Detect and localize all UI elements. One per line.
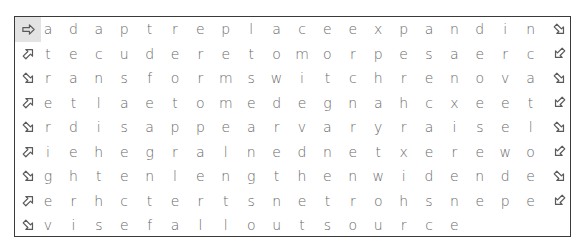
- letter-cell[interactable]: t: [368, 140, 388, 165]
- letter-cell[interactable]: p: [394, 17, 414, 42]
- letter-cell[interactable]: n: [89, 66, 109, 91]
- letter-cell[interactable]: p: [495, 189, 515, 214]
- letter-cell[interactable]: g: [140, 140, 160, 165]
- letter-cell[interactable]: p: [114, 17, 134, 42]
- letter-cell[interactable]: o: [190, 91, 210, 116]
- letter-cell[interactable]: n: [140, 164, 160, 189]
- letter-cell[interactable]: w: [368, 164, 388, 189]
- letter-cell[interactable]: r: [343, 189, 363, 214]
- letter-cell[interactable]: x: [394, 140, 414, 165]
- letter-cell[interactable]: a: [63, 66, 83, 91]
- letter-cell[interactable]: r: [190, 42, 210, 67]
- letter-cell[interactable]: e: [38, 189, 58, 214]
- letter-cell[interactable]: v: [292, 115, 312, 140]
- arrow-down-right-icon[interactable]: [546, 17, 572, 42]
- arrow-down-right-icon[interactable]: [546, 115, 572, 140]
- letter-cell[interactable]: t: [317, 189, 337, 214]
- letter-cell[interactable]: r: [165, 17, 185, 42]
- letter-cell[interactable]: e: [419, 140, 439, 165]
- letter-cell[interactable]: e: [343, 17, 363, 42]
- letter-cell[interactable]: s: [114, 66, 134, 91]
- letter-cell[interactable]: d: [470, 17, 490, 42]
- letter-cell[interactable]: t: [317, 66, 337, 91]
- letter-cell[interactable]: e: [343, 140, 363, 165]
- letter-cell[interactable]: d: [63, 115, 83, 140]
- letter-cell[interactable]: a: [419, 17, 439, 42]
- letter-cell[interactable]: s: [419, 42, 439, 67]
- letter-cell[interactable]: s: [419, 189, 439, 214]
- letter-cell[interactable]: a: [190, 140, 210, 165]
- letter-cell[interactable]: r: [38, 115, 58, 140]
- letter-cell[interactable]: w: [267, 66, 287, 91]
- letter-cell[interactable]: c: [114, 189, 134, 214]
- letter-cell[interactable]: x: [368, 17, 388, 42]
- letter-cell[interactable]: l: [216, 213, 236, 238]
- letter-cell[interactable]: h: [394, 189, 414, 214]
- letter-cell[interactable]: d: [63, 17, 83, 42]
- letter-cell[interactable]: o: [470, 66, 490, 91]
- letter-cell[interactable]: r: [38, 66, 58, 91]
- letter-cell[interactable]: a: [521, 66, 541, 91]
- letter-cell[interactable]: r: [495, 42, 515, 67]
- letter-cell[interactable]: r: [394, 213, 414, 238]
- letter-cell[interactable]: o: [317, 42, 337, 67]
- letter-cell[interactable]: e: [216, 42, 236, 67]
- letter-cell[interactable]: e: [470, 140, 490, 165]
- letter-cell[interactable]: o: [521, 140, 541, 165]
- letter-cell[interactable]: r: [267, 115, 287, 140]
- letter-cell[interactable]: p: [216, 17, 236, 42]
- letter-cell[interactable]: e: [444, 213, 464, 238]
- letter-cell[interactable]: l: [89, 91, 109, 116]
- letter-cell[interactable]: d: [495, 164, 515, 189]
- letter-cell[interactable]: y: [368, 115, 388, 140]
- letter-cell[interactable]: i: [394, 164, 414, 189]
- letter-cell[interactable]: n: [216, 164, 236, 189]
- letter-cell[interactable]: e: [63, 42, 83, 67]
- letter-cell[interactable]: e: [190, 17, 210, 42]
- arrow-down-left-icon[interactable]: [546, 91, 572, 116]
- letter-cell[interactable]: d: [140, 42, 160, 67]
- letter-cell[interactable]: r: [444, 140, 464, 165]
- letter-cell[interactable]: t: [140, 189, 160, 214]
- letter-cell[interactable]: p: [368, 42, 388, 67]
- letter-cell[interactable]: s: [114, 115, 134, 140]
- letter-cell[interactable]: i: [292, 66, 312, 91]
- letter-cell[interactable]: n: [343, 164, 363, 189]
- letter-cell[interactable]: c: [419, 213, 439, 238]
- letter-cell[interactable]: t: [216, 189, 236, 214]
- letter-cell[interactable]: e: [267, 140, 287, 165]
- letter-cell[interactable]: r: [165, 140, 185, 165]
- letter-cell[interactable]: e: [63, 140, 83, 165]
- letter-cell[interactable]: e: [165, 42, 185, 67]
- letter-cell[interactable]: e: [419, 66, 439, 91]
- arrow-down-left-icon[interactable]: [546, 189, 572, 214]
- letter-cell[interactable]: e: [521, 164, 541, 189]
- letter-cell[interactable]: e: [165, 189, 185, 214]
- letter-cell[interactable]: f: [140, 66, 160, 91]
- letter-cell[interactable]: a: [444, 42, 464, 67]
- letter-cell[interactable]: r: [190, 66, 210, 91]
- letter-cell[interactable]: c: [419, 91, 439, 116]
- letter-cell[interactable]: r: [394, 66, 414, 91]
- letter-cell[interactable]: h: [292, 164, 312, 189]
- letter-cell[interactable]: n: [317, 140, 337, 165]
- letter-cell[interactable]: t: [521, 91, 541, 116]
- letter-cell[interactable]: p: [190, 115, 210, 140]
- letter-cell[interactable]: e: [292, 91, 312, 116]
- letter-cell[interactable]: l: [521, 115, 541, 140]
- letter-cell[interactable]: n: [241, 140, 261, 165]
- letter-cell[interactable]: a: [38, 17, 58, 42]
- letter-cell[interactable]: u: [114, 42, 134, 67]
- arrow-down-left-icon[interactable]: [546, 42, 572, 67]
- arrow-down-right-icon[interactable]: [546, 66, 572, 91]
- letter-cell[interactable]: g: [38, 164, 58, 189]
- letter-cell[interactable]: e: [521, 189, 541, 214]
- letter-cell[interactable]: l: [165, 164, 185, 189]
- letter-cell[interactable]: s: [317, 213, 337, 238]
- letter-cell[interactable]: d: [292, 140, 312, 165]
- letter-cell[interactable]: n: [444, 17, 464, 42]
- letter-cell[interactable]: e: [470, 91, 490, 116]
- letter-cell[interactable]: a: [114, 91, 134, 116]
- letter-cell[interactable]: a: [89, 17, 109, 42]
- letter-cell[interactable]: r: [343, 115, 363, 140]
